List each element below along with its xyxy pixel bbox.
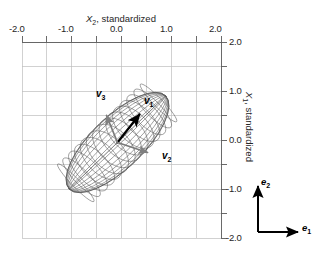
vector-v1-subscript: 1 [150,101,154,108]
basis-e2-subscript: 2 [266,182,270,189]
plot-canvas [0,0,325,262]
x-tick-label-0: -2.0 [9,23,25,34]
basis-axes [258,186,298,232]
x-tick-label-1: -1.0 [58,23,74,34]
basis-e1-label: e1 [302,222,311,235]
vector-v2-label: v2 [162,150,171,163]
x-axis-suffix: , standardized [96,13,156,24]
x-tick-label-3: 1.0 [160,23,173,34]
y-axis-suffix: , standardized [244,102,255,162]
vector-v3-subscript: 3 [102,94,106,101]
figure-panel: X2, standardized -2.0 -1.0 0.0 1.0 2.0 X… [0,0,325,262]
y-tick-label-3: -1.0 [226,183,242,194]
y-tick-label-4: -2.0 [226,232,242,243]
vector-v3-label: v3 [96,88,105,101]
y-tick-label-1: 1.0 [229,85,242,96]
y-axis-title: X1, standardized [242,92,255,162]
x-tick-label-2: 0.0 [110,23,123,34]
vector-v1-label: v1 [144,95,153,108]
vector-v2-subscript: 2 [168,156,172,163]
y-tick-label-2: 0.0 [229,134,242,145]
y-tick-label-0: 2.0 [229,36,242,47]
x-tick-label-4: 2.0 [209,23,222,34]
basis-e1-subscript: 1 [307,228,311,235]
basis-e2-label: e2 [261,176,270,189]
